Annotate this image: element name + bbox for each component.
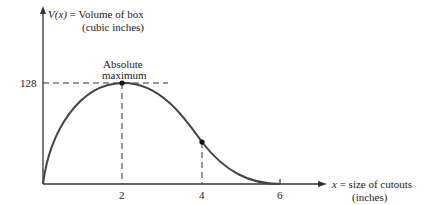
volume-curve <box>43 83 280 184</box>
x-axis-arrow-icon <box>318 181 327 187</box>
chart-svg <box>0 0 431 205</box>
y-axis-label-line1: V(x) = Volume of box <box>48 8 144 20</box>
max-point <box>119 80 124 85</box>
x4-point <box>199 139 204 144</box>
y-axis-label-line2: (cubic inches) <box>82 21 144 33</box>
x-axis-label-line2: (inches) <box>352 191 387 203</box>
annotation-line2: maximum <box>102 69 147 81</box>
y-tick-128: 128 <box>20 77 37 89</box>
x-tick-4-label: 4 <box>199 189 205 201</box>
x-tick-6-label: 6 <box>277 189 283 201</box>
y-axis-arrow-icon <box>40 6 46 14</box>
x-axis-label-line1: x = size of cutouts <box>332 178 412 190</box>
x-tick-2-label: 2 <box>119 189 125 201</box>
